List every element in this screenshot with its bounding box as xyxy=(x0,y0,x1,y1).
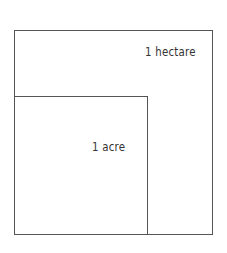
acre-label: 1 acre xyxy=(92,140,125,154)
hectare-label: 1 hectare xyxy=(145,45,196,59)
acre-square xyxy=(14,96,148,235)
